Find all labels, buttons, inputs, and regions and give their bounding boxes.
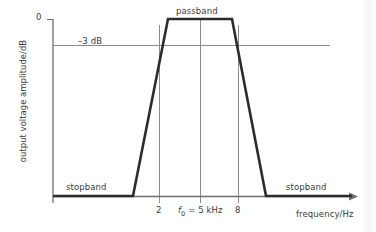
y-tick-label-0: 0 bbox=[36, 12, 42, 22]
x-axis-label: frequency/Hz bbox=[296, 209, 354, 219]
x-tick-label-lower-cutoff: 2 bbox=[156, 205, 162, 215]
y-axis-label: output voltage amplitude/dB bbox=[18, 26, 28, 176]
center-frequency-value: = 5 kHz bbox=[185, 205, 222, 215]
filter-response-plot bbox=[0, 0, 376, 232]
passband-label: passband bbox=[176, 6, 218, 16]
bandpass-filter-response-figure: output voltage amplitude/dB 0 –3 dB pass… bbox=[0, 0, 376, 232]
x-tick-label-center-frequency: f0 = 5 kHz bbox=[178, 205, 223, 218]
x-tick-label-upper-cutoff: 8 bbox=[235, 205, 241, 215]
stopband-left-label: stopband bbox=[66, 182, 107, 192]
stopband-right-label: stopband bbox=[286, 182, 327, 192]
threshold-label-minus-3db: –3 dB bbox=[78, 36, 102, 46]
